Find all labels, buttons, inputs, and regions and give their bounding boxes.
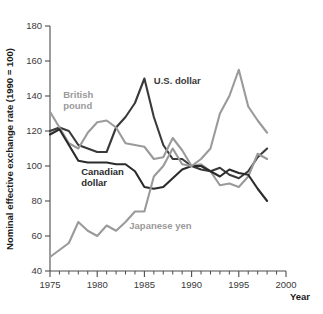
chart-container: 406080100120140160180 197519801985199019… (0, 0, 323, 314)
x-tick-label: 1990 (181, 279, 202, 290)
x-tick-label: 1995 (228, 279, 249, 290)
chart-series-labels: U.S. dollarBritishpoundCanadiandollarJap… (63, 75, 201, 231)
x-tick-label: 2000 (275, 279, 296, 290)
series-label-japanese-yen: Japanese yen (129, 220, 192, 231)
y-tick-label: 40 (31, 265, 42, 276)
y-tick-label: 160 (26, 55, 42, 66)
y-tick-label: 100 (26, 160, 42, 171)
exchange-rate-line-chart: 406080100120140160180 197519801985199019… (0, 0, 323, 314)
series-label-canadian-dollar: Canadiandollar (81, 166, 124, 188)
y-tick-label: 120 (26, 125, 42, 136)
x-tick-label: 1975 (39, 279, 60, 290)
y-axis-title: Nominal effective exchange rate (1990 = … (4, 48, 15, 250)
series-label-u-s-dollar: U.S. dollar (154, 75, 201, 86)
y-tick-label: 180 (26, 20, 42, 31)
y-axis-ticks: 406080100120140160180 (26, 20, 50, 276)
y-tick-label: 140 (26, 90, 42, 101)
series-label-british-pound: Britishpound (63, 89, 93, 111)
x-tick-label: 1980 (87, 279, 108, 290)
y-tick-label: 80 (31, 195, 42, 206)
x-axis-title: Year (290, 291, 310, 302)
y-tick-label: 60 (31, 230, 42, 241)
x-tick-label: 1985 (134, 279, 155, 290)
